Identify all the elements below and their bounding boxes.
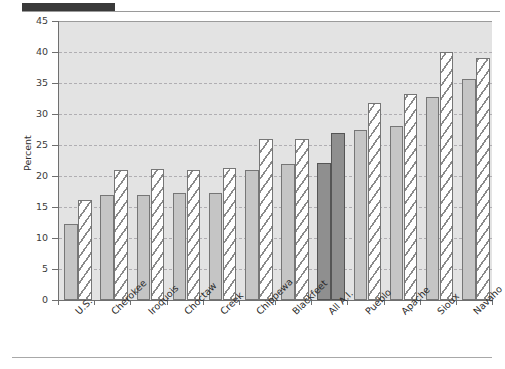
bar [223,168,237,300]
bar [187,170,201,300]
y-tick-mark [52,176,58,177]
bar-group [130,21,166,300]
bar [151,169,165,300]
bar-group [239,21,275,300]
bar-group [203,21,239,300]
y-tick-mark [52,83,58,84]
bar [295,139,309,300]
x-tick-mark [58,300,59,305]
bar-group [384,21,420,300]
y-tick-mark [52,21,58,22]
bar [368,103,382,300]
bar [259,139,273,300]
bar [245,170,259,300]
footer-divider [12,357,492,358]
bar [440,52,454,300]
y-tick-mark [52,52,58,53]
bar-group [456,21,492,300]
bar-group [167,21,203,300]
bar [404,94,418,300]
figure-page: 051015202530354045 Percent U.S.CherokeeI… [0,0,505,369]
bar [354,130,368,301]
bar-group [311,21,347,300]
bar [64,224,78,300]
y-tick-mark [52,114,58,115]
y-tick-mark [52,300,58,301]
bar [462,79,476,300]
bar [100,195,114,300]
bar-group [94,21,130,300]
bar [331,133,345,300]
bar [114,170,128,300]
y-tick-mark [52,207,58,208]
y-tick-mark [52,238,58,239]
bar-group [420,21,456,300]
y-tick-mark [52,145,58,146]
bar-group [275,21,311,300]
bar [390,126,404,300]
y-axis-title: Percent [22,135,33,171]
bar-group [347,21,383,300]
y-axis-title-holder: Percent [28,21,42,301]
header-divider [22,11,500,12]
y-tick-mark [52,269,58,270]
bar [78,200,92,300]
bar [426,97,440,300]
bar-group [58,21,94,300]
bar [476,58,490,300]
bars-layer [58,21,492,300]
